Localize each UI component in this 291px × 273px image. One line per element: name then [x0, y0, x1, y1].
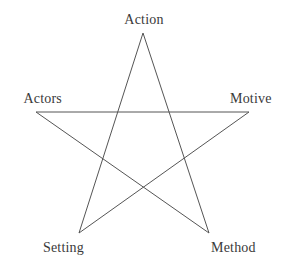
vertex-label-motive: Motive	[230, 91, 272, 107]
star-outline	[36, 33, 249, 233]
vertex-label-method: Method	[211, 240, 256, 256]
pentagram-diagram: Action Actors Motive Setting Method	[0, 0, 291, 273]
vertex-label-actors: Actors	[23, 91, 62, 107]
vertex-label-action: Action	[124, 12, 163, 28]
vertex-label-setting: Setting	[43, 240, 84, 256]
pentagram-star-shape	[0, 0, 291, 273]
